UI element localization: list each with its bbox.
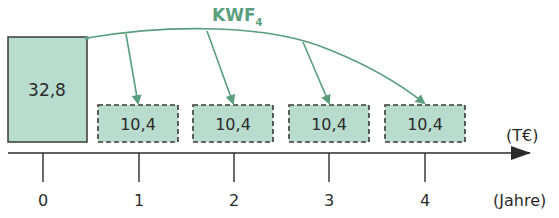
- annuity-arc-arrow: [87, 29, 424, 103]
- arc-start-dot: [85, 36, 89, 40]
- payment-box-4: 10,4: [385, 105, 465, 142]
- payment-box-2: 10,4: [193, 105, 273, 142]
- title-main: KWF: [212, 5, 256, 25]
- diagram-title: KWF4: [212, 5, 263, 28]
- tick-label-1: 1: [134, 191, 144, 210]
- payment-box-3: 10,4: [289, 105, 369, 142]
- cash-flow-diagram: KWF4 32,8 10,4 10,4 10,4 10,4 0 1 2 3 4 …: [0, 0, 559, 218]
- initial-investment-box: 32,8: [8, 37, 87, 142]
- arrow-to-year-3: [303, 42, 329, 103]
- payment-value-3: 10,4: [311, 115, 347, 134]
- value-unit-label: (T€): [506, 126, 538, 145]
- tick-label-2: 2: [229, 191, 239, 210]
- title-subscript: 4: [256, 17, 263, 28]
- payment-value-1: 10,4: [120, 115, 156, 134]
- tick-label-3: 3: [324, 191, 334, 210]
- time-unit-label: (Jahre): [493, 191, 546, 210]
- arrow-to-year-1: [126, 34, 138, 103]
- payment-value-2: 10,4: [215, 115, 251, 134]
- initial-value: 32,8: [28, 80, 66, 100]
- payment-box-1: 10,4: [98, 105, 178, 142]
- tick-label-4: 4: [420, 191, 430, 210]
- arrow-to-year-2: [207, 31, 233, 103]
- payment-value-4: 10,4: [407, 115, 443, 134]
- tick-label-0: 0: [38, 191, 48, 210]
